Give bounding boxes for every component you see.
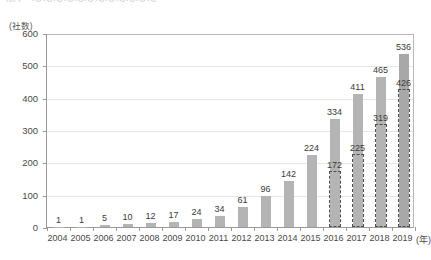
bar-column: 24 [185,34,208,227]
x-axis-label-2007: 2007 [116,233,136,243]
y-tick-label-100: 100 [6,190,38,201]
bar-column: 224 [300,34,323,227]
bar-value-label-total: 10 [122,212,132,222]
bar-column: 1 [47,34,70,227]
bar-column: 142 [277,34,300,227]
x-tick-mark [231,227,232,231]
y-tick-label-0: 0 [6,222,38,233]
bar-column: 1 [70,34,93,227]
x-tick-mark [300,227,301,231]
x-axis-label-2014: 2014 [277,233,297,243]
bar-subset-outline [398,89,410,227]
bar-value-label-total: 465 [373,65,388,75]
x-axis-label-2009: 2009 [162,233,182,243]
bar-value-label-total: 12 [145,211,155,221]
bar-value-label-total: 5 [102,213,107,223]
x-axis-label-2005: 2005 [70,233,90,243]
bar-column: 34 [208,34,231,227]
bar-subset-outline [375,124,387,227]
x-tick-mark [139,227,140,231]
x-tick-mark [93,227,94,231]
bar-value-label-total: 1 [79,215,84,225]
x-tick-mark [162,227,163,231]
bar-total [169,222,179,227]
x-tick-mark [70,227,71,231]
bar-value-label-subset: 225 [350,143,365,153]
bar-column: 12 [139,34,162,227]
x-tick-mark [208,227,209,231]
x-tick-mark [392,227,393,231]
bar-value-label-total: 224 [304,143,319,153]
x-axis-label-2017: 2017 [346,233,366,243]
bar-value-label-total: 96 [260,184,270,194]
bar-column: 17 [162,34,185,227]
bar-total [215,216,225,227]
y-tick-label-600: 600 [6,28,38,39]
x-tick-mark [415,227,416,231]
x-axis-label-2016: 2016 [323,233,343,243]
x-axis-label-2008: 2008 [139,233,159,243]
bar-column: 61 [231,34,254,227]
bar-value-label-subset: 426 [396,78,411,88]
bar-column: 536426 [392,34,415,227]
bar-value-label-total: 536 [396,42,411,52]
bar-total [54,227,64,228]
bar-column: 411225 [346,34,369,227]
bar-column: 96 [254,34,277,227]
bar-value-label-total: 411 [350,82,364,92]
x-tick-mark [346,227,347,231]
bar-column: 5 [93,34,116,227]
bar-total [123,224,133,227]
x-tick-mark [47,227,48,231]
figure-title: 図1 ～～～～～～～～～～～～ [6,0,157,2]
x-axis-label-2004: 2004 [47,233,67,243]
x-axis-label-2012: 2012 [231,233,251,243]
bars-group: 1151012172434619614222433417241122546531… [47,34,413,227]
bar-total [77,227,87,228]
x-axis-label-2015: 2015 [300,233,320,243]
bar-value-label-total: 142 [281,169,296,179]
x-axis-label-2006: 2006 [93,233,113,243]
x-axis-labels-group: 2004200520062007200820092010201120122013… [46,233,414,247]
bar-column: 334172 [323,34,346,227]
x-tick-mark [369,227,370,231]
bar-value-label-total: 34 [214,204,224,214]
bar-total [238,207,248,227]
bar-total [261,196,271,227]
chart-plot-area: 0100200300400500600 11510121724346196142… [46,34,414,228]
bar-value-label-total: 17 [168,210,178,220]
x-axis-label-2018: 2018 [369,233,389,243]
x-tick-mark [323,227,324,231]
bar-value-label-total: 24 [191,207,201,217]
bar-total [146,223,156,227]
x-tick-mark [277,227,278,231]
x-axis-unit-label: (年) [416,233,431,246]
bar-value-label-subset: 319 [373,113,388,123]
x-axis-label-2010: 2010 [185,233,205,243]
bar-subset-outline [352,154,364,227]
x-axis-label-2011: 2011 [209,233,228,243]
bar-value-label-total: 61 [237,195,247,205]
y-tick-label-500: 500 [6,60,38,71]
bar-column: 465319 [369,34,392,227]
bar-column: 10 [116,34,139,227]
x-axis-label-2013: 2013 [254,233,274,243]
y-tick-label-300: 300 [6,125,38,136]
bar-value-label-subset: 172 [327,160,342,170]
bar-total [307,155,317,227]
x-tick-mark [185,227,186,231]
x-tick-mark [116,227,117,231]
bar-total [100,225,110,227]
y-tick-label-400: 400 [6,93,38,104]
x-tick-mark [254,227,255,231]
y-tick-label-200: 200 [6,157,38,168]
bar-total [192,219,202,227]
bar-value-label-total: 1 [56,215,61,225]
bar-value-label-total: 334 [327,107,342,117]
x-axis-label-2019: 2019 [392,233,412,243]
bar-subset-outline [329,171,341,227]
bar-total [284,181,294,227]
